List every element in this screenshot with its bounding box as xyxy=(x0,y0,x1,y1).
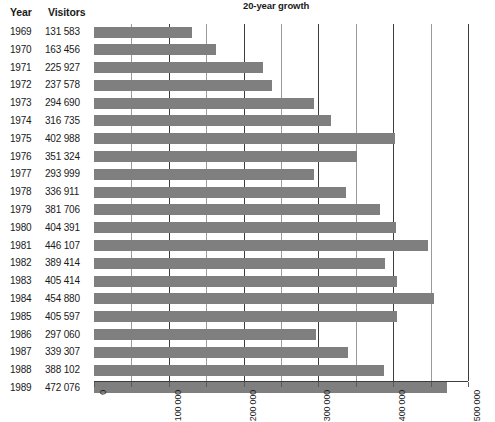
cell-year: 1977 xyxy=(10,168,31,179)
column-header-year: Year xyxy=(10,6,32,18)
axis-tick xyxy=(393,382,394,387)
table-row: 1974316 735 xyxy=(0,113,94,131)
bar-row xyxy=(94,77,468,95)
cell-year: 1985 xyxy=(10,311,31,322)
bar xyxy=(94,276,397,287)
axis-tick-label: 200 000 xyxy=(248,390,258,421)
bar-row xyxy=(94,291,468,309)
cell-year: 1976 xyxy=(10,151,31,162)
cell-year: 1973 xyxy=(10,97,31,108)
axis-tick xyxy=(131,382,132,387)
cell-visitors: 405 597 xyxy=(45,311,80,322)
table-row: 1978336 911 xyxy=(0,184,94,202)
bar xyxy=(94,98,314,109)
bar-row xyxy=(94,184,468,202)
cell-visitors: 237 578 xyxy=(45,79,80,90)
cell-visitors: 454 880 xyxy=(45,293,80,304)
bar-row xyxy=(94,344,468,362)
axis-tick xyxy=(169,382,170,387)
bar xyxy=(94,365,384,376)
cell-visitors: 297 060 xyxy=(45,329,80,340)
bar-row xyxy=(94,220,468,238)
axis-tick xyxy=(206,382,207,387)
axis-tick-label: 500 000 xyxy=(472,390,482,421)
cell-year: 1989 xyxy=(10,382,31,393)
cell-visitors: 388 102 xyxy=(45,364,80,375)
bar xyxy=(94,258,385,269)
cell-visitors: 402 988 xyxy=(45,133,80,144)
cell-visitors: 293 999 xyxy=(45,168,80,179)
bar-row xyxy=(94,113,468,131)
cell-year: 1979 xyxy=(10,204,31,215)
cell-visitors: 163 456 xyxy=(45,44,80,55)
axis-tick xyxy=(431,382,432,387)
cell-visitors: 351 324 xyxy=(45,151,80,162)
bar xyxy=(94,204,380,215)
bar-chart-plot-area xyxy=(94,24,468,381)
axis-tick xyxy=(244,382,245,387)
bar-row xyxy=(94,60,468,78)
table-row: 1983405 414 xyxy=(0,273,94,291)
cell-year: 1986 xyxy=(10,329,31,340)
cell-year: 1983 xyxy=(10,275,31,286)
table-row: 1986297 060 xyxy=(0,327,94,345)
cell-visitors: 339 307 xyxy=(45,346,80,357)
bar-row xyxy=(94,202,468,220)
table-row: 1969131 583 xyxy=(0,24,94,42)
bar-row xyxy=(94,238,468,256)
cell-visitors: 389 414 xyxy=(45,257,80,268)
cell-visitors: 446 107 xyxy=(45,240,80,251)
cell-visitors: 405 414 xyxy=(45,275,80,286)
cell-visitors: 294 690 xyxy=(45,97,80,108)
table-row: 1982389 414 xyxy=(0,255,94,273)
table-row: 1989472 076 xyxy=(0,380,94,398)
bar xyxy=(94,44,216,55)
table-row: 1985405 597 xyxy=(0,309,94,327)
cell-year: 1975 xyxy=(10,133,31,144)
bar-row xyxy=(94,327,468,345)
bar xyxy=(94,27,192,38)
cell-year: 1970 xyxy=(10,44,31,55)
bar xyxy=(94,115,331,126)
axis-tick xyxy=(94,382,95,387)
bar-row xyxy=(94,309,468,327)
cell-year: 1987 xyxy=(10,346,31,357)
bar-row xyxy=(94,95,468,113)
column-header-visitors: Visitors xyxy=(48,6,86,18)
table-row: 1971225 927 xyxy=(0,60,94,78)
table-row: 1973294 690 xyxy=(0,95,94,113)
cell-visitors: 336 911 xyxy=(45,186,79,197)
table-row: 1988388 102 xyxy=(0,362,94,380)
chart-title: 20-year growth xyxy=(243,0,309,11)
cell-year: 1972 xyxy=(10,79,31,90)
cell-year: 1980 xyxy=(10,222,31,233)
bar xyxy=(94,133,395,144)
axis-tick-label: 100 000 xyxy=(173,390,183,421)
cell-visitors: 472 076 xyxy=(45,382,80,393)
table-row: 1970163 456 xyxy=(0,42,94,60)
bar xyxy=(94,347,348,358)
bar-row xyxy=(94,362,468,380)
bar xyxy=(94,62,263,73)
bar xyxy=(94,293,434,304)
bar xyxy=(94,151,357,162)
table-row: 1984454 880 xyxy=(0,291,94,309)
axis-tick xyxy=(318,382,319,387)
data-table: 1969131 5831970163 4561971225 9271972237… xyxy=(0,24,94,381)
table-row: 1981446 107 xyxy=(0,238,94,256)
table-row: 1979381 706 xyxy=(0,202,94,220)
bar-row xyxy=(94,131,468,149)
table-row: 1977293 999 xyxy=(0,166,94,184)
axis-tick-label: 300 000 xyxy=(322,390,332,421)
table-row: 1975402 988 xyxy=(0,131,94,149)
bar xyxy=(94,187,346,198)
table-row: 1976351 324 xyxy=(0,149,94,167)
table-row: 1987339 307 xyxy=(0,344,94,362)
cell-year: 1982 xyxy=(10,257,31,268)
bar xyxy=(94,329,316,340)
cell-year: 1984 xyxy=(10,293,31,304)
axis-tick xyxy=(468,382,469,387)
bar xyxy=(94,169,314,180)
bar-row xyxy=(94,24,468,42)
table-row: 1980404 391 xyxy=(0,220,94,238)
